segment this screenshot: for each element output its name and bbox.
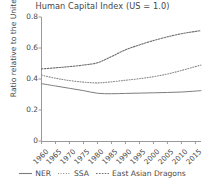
legend-item-ner[interactable]: NER [19,169,51,178]
legend-line-swatch-icon [58,171,71,176]
legend-item-ssa[interactable]: SSA [58,169,89,178]
legend-item-east-asian-dragons[interactable]: East Asian Dragons [96,169,186,178]
legend-label: SSA [74,169,89,178]
chart-legend: NERSSAEast Asian Dragons [0,169,205,178]
legend-line-swatch-icon [96,171,109,176]
x-axis-tick-labels: 1960196519701975198019851990199520002005… [0,0,205,189]
legend-label: NER [35,169,51,178]
legend-line-swatch-icon [19,171,32,176]
legend-label: East Asian Dragons [112,169,186,178]
chart-container: Human Capital Index (US = 1.0) Ratio rel… [0,0,205,189]
